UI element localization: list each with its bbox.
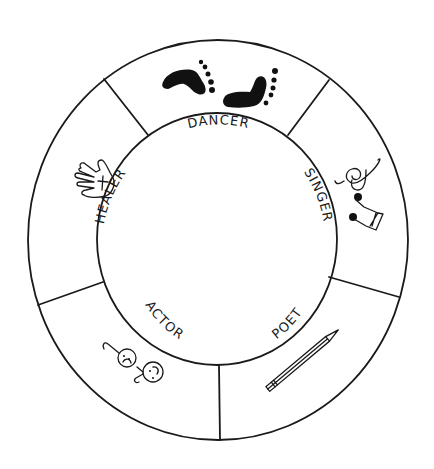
divider-poet-actor	[219, 366, 220, 440]
divider-actor-healer	[38, 282, 103, 305]
inner-circle	[97, 113, 337, 365]
segment-label-actor: ACTOR	[143, 298, 187, 343]
segment-label-singer: SINGER	[301, 165, 336, 223]
segment-dancer: DANCER	[162, 60, 278, 131]
segment-label-poet: POET	[269, 305, 305, 342]
outer-ring	[28, 40, 408, 440]
theater-masks-icon	[103, 343, 163, 383]
music-notes-icon	[335, 159, 383, 230]
segment-singer: SINGER	[301, 159, 383, 230]
footprints-icon	[162, 60, 278, 108]
divider-singer-poet	[329, 277, 399, 297]
divider-healer-dancer	[104, 79, 148, 135]
divider-dancer-singer	[288, 80, 329, 135]
segment-label-dancer: DANCER	[186, 112, 251, 131]
segment-healer: HEALER	[75, 160, 129, 225]
role-wheel-diagram: DANCER SINGER POET	[0, 0, 434, 469]
